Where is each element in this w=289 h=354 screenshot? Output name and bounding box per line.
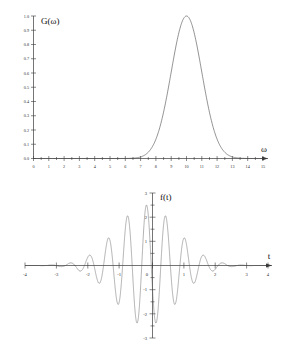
spectrum-ytick-1: 0.1 xyxy=(24,142,29,147)
wavepacket-ytick-m3: -3 xyxy=(143,336,148,341)
spectrum-ytick-8: 0.8 xyxy=(24,42,29,47)
spectrum-xtick-13: 13 xyxy=(230,164,234,169)
wavepacket-xtick-3: -1 xyxy=(117,272,122,277)
spectrum-plot: 0.0 0.1 0.2 0.3 0.4 0.5 0.6 0.7 0.8 0.9 … xyxy=(0,0,289,180)
spectrum-xtick-4: 4 xyxy=(94,164,97,169)
wavepacket-ytick-m1: -1 xyxy=(143,287,148,292)
spectrum-xtick-7: 7 xyxy=(140,164,142,169)
spectrum-ytick-4: 0.4 xyxy=(24,99,30,104)
spectrum-xtick-2: 2 xyxy=(63,164,65,169)
spectrum-ytick-3: 0.3 xyxy=(24,113,29,118)
spectrum-curve xyxy=(34,16,264,159)
spectrum-xtick-9: 9 xyxy=(170,164,172,169)
spectrum-ytick-5: 0.5 xyxy=(24,85,29,90)
wavepacket-xtick-0: -4 xyxy=(23,272,28,277)
wavepacket-xtick-2: -2 xyxy=(86,272,91,277)
spectrum-xtick-14: 14 xyxy=(246,164,251,169)
spectrum-xtick-11: 11 xyxy=(200,164,204,169)
spectrum-xtick-5: 5 xyxy=(109,164,111,169)
wavepacket-xlabel: t xyxy=(268,251,271,261)
spectrum-xtick-3: 3 xyxy=(78,164,80,169)
wavepacket-ytick-3: 3 xyxy=(145,191,148,196)
wavepacket-ytick-1: 1 xyxy=(145,239,148,244)
spectrum-ytick-2: 0.2 xyxy=(24,128,29,133)
wavepacket-xtick-6: 2 xyxy=(214,272,217,277)
wavepacket-svg: -4 -3 -2 -1 0 1 2 3 4 xyxy=(0,180,289,354)
spectrum-ytick-7: 0.7 xyxy=(24,56,29,61)
spectrum-ytick-10: 1.0 xyxy=(24,14,29,19)
spectrum-xtick-1: 1 xyxy=(48,164,50,169)
spectrum-x-ticklabels: 0 1 2 3 4 5 6 7 8 9 10 11 12 13 14 15 xyxy=(32,164,265,169)
wavepacket-xtick-7: 3 xyxy=(245,272,248,277)
wavepacket-x-ticklabels: -4 -3 -2 -1 0 1 2 3 4 xyxy=(23,272,270,277)
wavepacket-xtick-8: 4 xyxy=(267,272,270,277)
spectrum-ytick-0: 0.0 xyxy=(24,156,29,161)
wavepacket-plot: -4 -3 -2 -1 0 1 2 3 4 xyxy=(0,180,289,354)
wavepacket-xtick-1: -3 xyxy=(54,272,59,277)
wavepacket-ylabel: f(t) xyxy=(160,192,172,202)
spectrum-xtick-12: 12 xyxy=(215,164,219,169)
wavepacket-ytick-2: 2 xyxy=(145,215,148,220)
wavepacket-curve xyxy=(25,205,268,323)
spectrum-xtick-0: 0 xyxy=(32,164,34,169)
spectrum-xtick-10: 10 xyxy=(184,164,188,169)
spectrum-ytick-9: 0.9 xyxy=(24,28,29,33)
spectrum-ytick-6: 0.6 xyxy=(24,71,29,76)
spectrum-xtick-8: 8 xyxy=(155,164,157,169)
wavepacket-xtick-4: 0 xyxy=(146,272,149,277)
spectrum-svg: 0.0 0.1 0.2 0.3 0.4 0.5 0.6 0.7 0.8 0.9 … xyxy=(0,0,289,180)
wavepacket-xtick-5: 1 xyxy=(183,272,186,277)
spectrum-xlabel: ω xyxy=(261,144,267,154)
spectrum-xtick-6: 6 xyxy=(124,164,126,169)
spectrum-y-ticklabels: 0.0 0.1 0.2 0.3 0.4 0.5 0.6 0.7 0.8 0.9 … xyxy=(24,14,30,162)
spectrum-ylabel: G(ω) xyxy=(41,16,59,26)
wavepacket-ytick-m2: -2 xyxy=(143,312,148,317)
spectrum-xtick-15: 15 xyxy=(261,164,265,169)
